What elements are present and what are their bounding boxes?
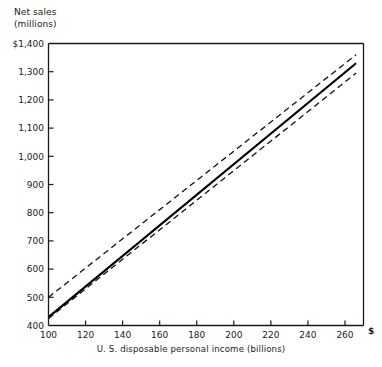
y-tick-label: 600: [27, 264, 44, 274]
x-axis-currency-symbol: $: [368, 326, 374, 336]
y-tick-label: 1,000: [18, 152, 44, 162]
y-tick-label-group: 4005006007008009001,0001,1001,2001,300$1…: [13, 39, 45, 331]
x-tick-label-group: 100120140160180200220240260: [40, 330, 354, 340]
y-tick-label: 1,200: [18, 95, 44, 105]
y-tick-label: 1,300: [18, 67, 44, 77]
y-tick-label: 1,100: [18, 123, 44, 133]
y-tick-mark-group: [49, 72, 54, 298]
x-tick-mark-group: [86, 321, 345, 326]
series-line: [49, 63, 357, 317]
x-axis-title: U. S. disposable personal income (billio…: [0, 344, 382, 354]
x-tick-label: 160: [151, 330, 168, 340]
x-tick-label: 120: [77, 330, 94, 340]
data-series-group: [49, 55, 357, 319]
x-tick-label: 100: [40, 330, 57, 340]
y-tick-label: 900: [27, 180, 44, 190]
y-tick-label: 500: [27, 293, 44, 303]
x-tick-label: 260: [336, 330, 353, 340]
plot-area: 4005006007008009001,0001,1001,2001,300$1…: [0, 0, 382, 367]
x-tick-label: 200: [225, 330, 242, 340]
x-tick-label: 240: [299, 330, 316, 340]
y-tick-label: 700: [27, 236, 44, 246]
x-tick-label: 220: [262, 330, 279, 340]
x-tick-label: 140: [114, 330, 131, 340]
y-tick-label: $1,400: [13, 39, 45, 49]
x-tick-label: 180: [188, 330, 205, 340]
y-tick-label: 800: [27, 208, 44, 218]
series-line: [49, 73, 357, 318]
series-line: [49, 55, 357, 298]
regression-chart: Net sales (millions) 4005006007008009001…: [0, 0, 382, 367]
